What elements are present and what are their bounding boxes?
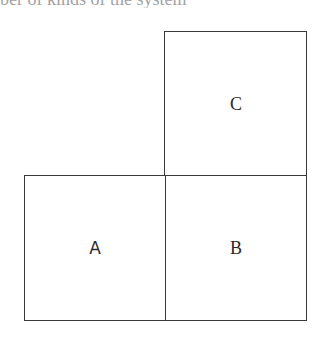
box-a-label: A [89,240,101,257]
box-b-label: B [230,239,242,257]
box-c-label: C [230,95,242,113]
clipped-caption-text: ber of kinds of the system [0,0,328,8]
